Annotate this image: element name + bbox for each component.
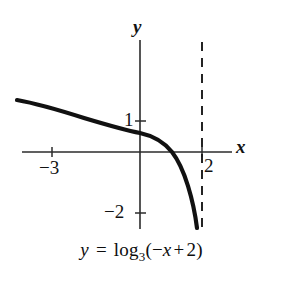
log-function-graph-figure: y x −3 2 1 −2 y = log3(−x+2) [0, 0, 283, 295]
equation-part-log: log [114, 239, 139, 260]
equation-caption: y = log3(−x+2) [0, 240, 283, 264]
y-tick-label-1: 1 [124, 110, 134, 129]
x-axis-label: x [236, 137, 246, 156]
equation-part-plus: + [172, 239, 187, 260]
equation-part-equals: = [94, 239, 109, 260]
y-tick-label-minus2: −2 [104, 202, 124, 221]
equation-part-minus: − [152, 239, 163, 260]
equation-part-close-paren: ) [196, 239, 203, 260]
equation-part-two: 2 [186, 239, 196, 260]
equation-part-y: y [80, 239, 89, 260]
x-tick-label-minus3: −3 [39, 158, 59, 177]
x-tick-label-2: 2 [204, 156, 214, 175]
equation-part-x: x [163, 239, 172, 260]
y-axis-label: y [133, 17, 141, 36]
